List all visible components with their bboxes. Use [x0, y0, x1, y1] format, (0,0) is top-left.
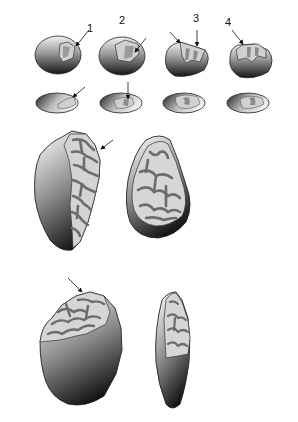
platform-view-1 — [36, 87, 85, 113]
stage-label-4: 4 — [225, 16, 231, 28]
core-reduction-figure — [0, 0, 298, 422]
platform-view-4 — [227, 93, 269, 113]
large-core-a-side — [35, 131, 113, 250]
bottom-core-a-side — [40, 278, 122, 405]
stage-label-2: 2 — [119, 14, 125, 26]
core-stage-1 — [35, 30, 89, 74]
core-stage-3 — [165, 30, 208, 76]
platform-view-2 — [100, 82, 142, 113]
core-stage-2 — [99, 37, 146, 75]
platform-view-3 — [163, 93, 205, 113]
stage-label-1: 1 — [87, 22, 93, 34]
core-stage-4 — [230, 30, 272, 78]
stage-label-3: 3 — [193, 12, 199, 24]
bottom-core-b-face — [156, 292, 190, 408]
large-core-b-face — [126, 136, 190, 238]
